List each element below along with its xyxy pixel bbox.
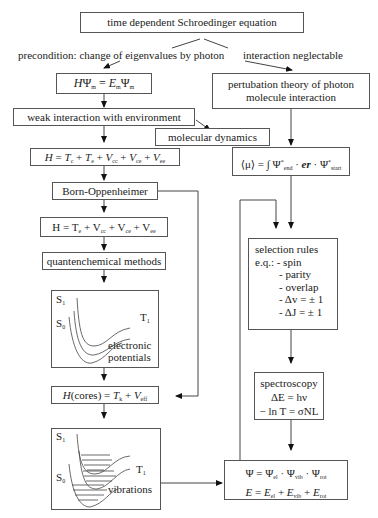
- vibrations-label: vibrations: [108, 483, 152, 496]
- perturbation-line2: molecule interaction: [213, 91, 369, 104]
- spectroscopy-box: spectroscopy ΔE = hν − ln T = σNL: [254, 372, 324, 420]
- weak-interaction-label: weak interaction with environment: [27, 111, 181, 123]
- electronic-potentials-label: electronicpotentials: [108, 339, 151, 363]
- s0-label: S0: [56, 317, 65, 334]
- selection-rules-title: selection rules: [255, 243, 337, 256]
- perturbation-line1: pertubation theory of photon: [213, 78, 369, 91]
- spectroscopy-eq1: ΔE = hν: [255, 390, 323, 404]
- quantum-methods-label: quantenchemical methods: [47, 255, 162, 267]
- t-sub: k: [119, 396, 122, 402]
- s0-label: S0: [56, 471, 65, 488]
- s1-label: S1: [56, 293, 65, 310]
- hamiltonian-term: + Vcc: [94, 151, 118, 163]
- hamiltonian-terms: Tc + Te + Vcc + Vce + Vee: [65, 151, 166, 163]
- wavefunction-product: Ψ = Ψel · Ψvib · Ψrot: [225, 466, 347, 485]
- selection-rules-box: selection rules e.q.: - spin - parity - …: [248, 238, 338, 330]
- total-wavefunction-box: Ψ = Ψel · Ψvib · Ψrot E = Eel + Evib + E…: [224, 460, 348, 500]
- hamiltonian-term: + Vce: [106, 221, 131, 233]
- weak-interaction-box: weak interaction with environment: [13, 108, 195, 126]
- schroedinger-label: time dependent Schroedinger equation: [107, 16, 277, 28]
- interaction-neglectable-label: interaction neglectable: [243, 49, 343, 61]
- hamiltonian-term: + Vee: [141, 151, 165, 163]
- spectroscopy-title: spectroscopy: [255, 376, 323, 390]
- precondition-label: precondition: change of eigenvalues by p…: [18, 49, 224, 61]
- rule-item: - overlap: [255, 281, 337, 294]
- electronic-potentials-box: S1 S0 T1 electronicpotentials: [51, 290, 159, 368]
- eigenvalue-equation-box: HΨm = EmΨm: [56, 73, 152, 94]
- s1-curve: [77, 434, 130, 474]
- v-sub: eff: [141, 396, 148, 402]
- t1-label: T1: [140, 311, 150, 328]
- hamiltonian-term: Te: [72, 221, 81, 233]
- arrow-to-perturbation: [245, 61, 292, 70]
- energy-sum: E = Eel + Evib + Erot: [225, 485, 347, 504]
- molecular-dynamics-label: molecular dynamics: [168, 131, 257, 143]
- hamiltonian-electronic-box: H = Te + Vcc + Vce + Vee: [40, 217, 168, 237]
- hamiltonian-term: Tc: [65, 151, 74, 163]
- hamiltonian-term: + Vce: [118, 151, 142, 163]
- v-symbol: V: [134, 389, 141, 401]
- cores-arg: (cores): [71, 389, 102, 401]
- rule-item: - ΔJ = ± 1: [255, 306, 337, 319]
- end-sub: end: [284, 165, 293, 171]
- t1-label: T1: [136, 463, 146, 480]
- eq-psi: Ψ: [121, 76, 130, 90]
- mu-integral: ⟨μ⟩ = ∫ Ψ: [241, 158, 281, 170]
- born-oppenheimer-label: Born-Oppenheimer: [62, 185, 148, 197]
- rule-item: - parity: [255, 268, 337, 281]
- spectroscopy-eq2: − ln T = σNL: [255, 404, 323, 418]
- born-oppenheimer-box: Born-Oppenheimer: [52, 182, 158, 200]
- eq-sub: m: [130, 84, 135, 90]
- schroedinger-box: time dependent Schroedinger equation: [80, 12, 304, 33]
- hamiltonian-term: + Te: [73, 151, 94, 163]
- h-symbol: H: [45, 151, 53, 163]
- start-sub: start: [331, 165, 341, 171]
- h-symbol: H: [63, 389, 71, 401]
- rule-item: e.q.: - spin: [255, 256, 337, 269]
- hamiltonian-term: + Vcc: [81, 221, 106, 233]
- molecular-dynamics-box: molecular dynamics: [155, 128, 270, 146]
- quantum-methods-box: quantenchemical methods: [42, 252, 166, 270]
- er-operator: er: [302, 158, 311, 170]
- arrow-to-eigen: [104, 61, 120, 68]
- eq-psi: Ψ: [82, 76, 91, 90]
- h-symbol: H: [52, 221, 60, 233]
- hamiltonian-term: + Vee: [131, 221, 156, 233]
- hamiltonian-cores-box: H(cores) = Tk + Veff: [51, 386, 159, 404]
- vibrations-box: S1 S0 T1 vibrations: [51, 428, 161, 510]
- eq-e: E: [109, 76, 116, 90]
- expectation-value-box: ⟨μ⟩ = ∫ Ψ*end · er · Ψ*start: [232, 147, 350, 176]
- hamiltonian-terms: Te + Vcc + Vce + Vee: [72, 221, 156, 233]
- hamiltonian-full-box: H = Tc + Te + Vcc + Vce + Vee: [30, 148, 180, 166]
- perturbation-box: pertubation theory of photon molecule in…: [212, 73, 370, 109]
- s1-label: S1: [56, 430, 65, 447]
- eq-sign: =: [96, 76, 109, 90]
- rule-item: - Δv = ± 1: [255, 293, 337, 306]
